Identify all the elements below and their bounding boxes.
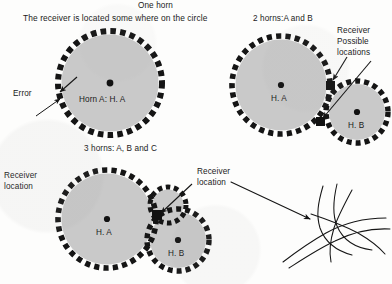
horn-b-label-panel-three: H. B <box>168 249 184 258</box>
horn-a-center-dot-1 <box>107 80 114 87</box>
panel-one-horn-subtitle: The receiver is located some where on th… <box>23 14 207 24</box>
detail-arc-5 <box>289 229 390 268</box>
detail-arc-2 <box>334 184 372 250</box>
figure-canvas: One horn The receiver is located some wh… <box>0 0 392 284</box>
receiver-possible-locations-annotation: Receiver Possible locations <box>337 26 370 58</box>
horn-a-label-panel-two: H. A <box>271 94 287 103</box>
receiver-location-annotation-three-horns: Receiver location <box>197 167 230 189</box>
diagram-artwork <box>0 0 392 284</box>
intersection-marker-upper-2 <box>326 81 335 90</box>
possible-location-arrow-upper <box>333 57 347 80</box>
error-label: Error <box>13 89 32 98</box>
panel-two-horns-title: 2 horns:A and B <box>253 14 313 23</box>
panel-one-horn-title: One horn <box>138 1 173 10</box>
detail-receiver-arrow <box>231 182 310 219</box>
error-arrow-lower <box>36 99 60 116</box>
receiver-location-annotation-detail: Receiver location <box>4 171 37 193</box>
detail-arc-4 <box>283 218 386 262</box>
panel-arc-detail <box>231 182 390 268</box>
horn-a-label-panel-three: H. A <box>96 228 112 237</box>
receiver-location-marker-3 <box>152 210 162 220</box>
intersection-marker-lower-2 <box>316 117 325 126</box>
horn-a-center-dot-2 <box>278 82 284 88</box>
panel-one-horn <box>36 31 162 135</box>
horn-b-label-panel-two: H. B <box>348 121 364 130</box>
panel-three-horns <box>58 170 209 271</box>
horn-a-label-panel-one: Horn A: H. A <box>79 95 125 104</box>
horn-b-center-dot-3 <box>175 237 181 243</box>
panel-three-horns-title: 3 horns: A, B and C <box>84 144 157 153</box>
horn-a-center-dot-3 <box>104 216 110 222</box>
horn-b-center-dot-2 <box>354 109 360 115</box>
